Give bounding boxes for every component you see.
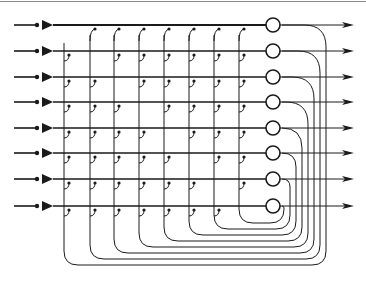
input-node-3 — [35, 75, 39, 79]
amplifier-icon-5 — [42, 123, 53, 133]
input-node-5 — [35, 126, 39, 130]
synapse-dot — [242, 181, 245, 184]
synapse-dot — [217, 208, 220, 211]
synapse-dot — [192, 208, 195, 211]
synapse-dot — [93, 181, 96, 184]
feedback-line-1 — [64, 25, 326, 265]
neuron-7 — [266, 172, 280, 186]
synapse-dot — [93, 104, 96, 107]
synapse-hook — [90, 29, 95, 41]
synapse-dot — [217, 130, 220, 133]
synapse-hook — [114, 29, 119, 41]
synapse-dot — [142, 155, 145, 158]
synapse-dot — [93, 208, 96, 211]
synapse-dot — [117, 208, 120, 211]
synapse-dot — [217, 79, 220, 82]
neuron-5 — [266, 121, 280, 135]
input-node-2 — [35, 49, 39, 53]
synapse-dot — [242, 130, 245, 133]
synapse-dot — [67, 104, 70, 107]
input-node-7 — [35, 177, 39, 181]
synapse-dot — [167, 27, 170, 30]
synapse-dot — [67, 130, 70, 133]
synapse-dot — [142, 53, 145, 56]
synapse-hook — [164, 29, 169, 41]
input-node-4 — [35, 100, 39, 104]
synapse-dot — [117, 155, 120, 158]
synapse-dot — [67, 79, 70, 82]
amplifier-icon-4 — [42, 97, 53, 107]
input-node-8 — [35, 204, 39, 208]
synapse-hook — [139, 29, 144, 41]
synapse-dot — [142, 130, 145, 133]
synapse-hook — [239, 29, 244, 41]
neuron-4 — [266, 95, 280, 109]
synapse-dot — [217, 155, 220, 158]
synapse-dot — [192, 181, 195, 184]
amplifier-icon-7 — [42, 174, 53, 184]
synapse-dot — [242, 27, 245, 30]
synapse-dot — [142, 208, 145, 211]
synapse-dot — [93, 130, 96, 133]
synapse-dot — [242, 155, 245, 158]
synapse-dot — [217, 104, 220, 107]
synapse-dot — [67, 155, 70, 158]
neural-network-diagram — [0, 0, 366, 284]
synapse-dot — [242, 79, 245, 82]
synapse-dot — [192, 53, 195, 56]
synapse-dot — [192, 79, 195, 82]
synapse-dot — [117, 53, 120, 56]
synapse-dot — [192, 130, 195, 133]
synapse-dot — [167, 208, 170, 211]
synapse-dot — [167, 53, 170, 56]
amplifier-icon-1 — [42, 20, 53, 30]
synapse-dot — [117, 104, 120, 107]
synapse-dot — [167, 155, 170, 158]
neuron-8 — [266, 199, 280, 213]
synapse-dot — [93, 155, 96, 158]
synapse-dot — [142, 181, 145, 184]
feedback-line-2 — [90, 35, 320, 259]
neuron-2 — [266, 44, 280, 58]
synapse-hook — [189, 29, 194, 41]
synapse-dot — [142, 27, 145, 30]
synapse-dot — [167, 104, 170, 107]
synapse-dot — [93, 27, 96, 30]
synapse-dot — [242, 53, 245, 56]
synapse-dot — [117, 27, 120, 30]
synapse-dot — [192, 27, 195, 30]
synapse-dot — [117, 130, 120, 133]
synapse-dot — [67, 53, 70, 56]
amplifier-icon-2 — [42, 46, 53, 56]
neuron-6 — [266, 146, 280, 160]
synapse-dot — [67, 181, 70, 184]
synapse-dot — [192, 104, 195, 107]
feedback-line-5 — [164, 35, 302, 241]
amplifier-icon-3 — [42, 72, 53, 82]
synapse-dot — [93, 79, 96, 82]
neuron-1 — [266, 18, 280, 32]
synapse-dot — [117, 181, 120, 184]
amplifier-icon-6 — [42, 148, 53, 158]
synapse-dot — [167, 181, 170, 184]
synapse-dot — [217, 27, 220, 30]
neuron-3 — [266, 70, 280, 84]
synapse-dot — [217, 53, 220, 56]
input-node-6 — [35, 151, 39, 155]
synapse-dot — [67, 208, 70, 211]
input-node-1 — [35, 23, 39, 27]
amplifier-icon-8 — [42, 201, 53, 211]
synapse-hook — [214, 29, 219, 41]
synapse-dot — [167, 79, 170, 82]
synapse-dot — [242, 104, 245, 107]
synapse-dot — [142, 79, 145, 82]
